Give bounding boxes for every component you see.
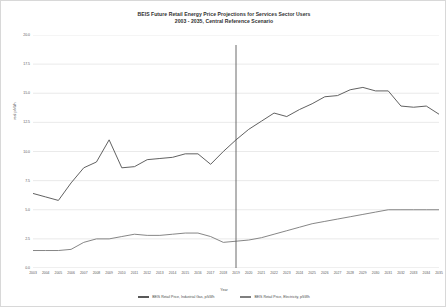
- x-axis-tick-label: 2009: [105, 271, 113, 275]
- x-axis-tick-label: 2006: [67, 271, 75, 275]
- x-axis-title: Year: [1, 288, 446, 292]
- x-axis-tick-label: 2021: [258, 271, 266, 275]
- x-axis-tick-label: 2025: [308, 271, 316, 275]
- legend-item-label: BEIS Retail Price, Industrial Gas, p/kWh: [152, 295, 214, 299]
- y-axis-tick-label: 12.5: [8, 120, 33, 124]
- chart-title-block: BEIS Future Retail Energy Price Projecti…: [1, 11, 446, 25]
- x-axis-tick-label: 2026: [321, 271, 329, 275]
- x-axis-tick-label: 2005: [55, 271, 63, 275]
- x-axis-tick-label: 2012: [143, 271, 151, 275]
- legend-item-label: BEIS Retail Price, Electricity, p/kWh: [254, 295, 309, 299]
- x-axis-tick-label: 2013: [156, 271, 164, 275]
- y-axis-tick-label: 15.0: [8, 91, 33, 95]
- x-axis-tick-label: 2031: [384, 271, 392, 275]
- page-subtitle: 2003 - 2035, Central Reference Scenario: [1, 18, 446, 25]
- page-title: BEIS Future Retail Energy Price Projecti…: [1, 11, 446, 18]
- x-axis-tick-label: 2029: [359, 271, 367, 275]
- chart-container: BEIS Future Retail Energy Price Projecti…: [0, 0, 446, 307]
- x-axis-tick-label: 2022: [270, 271, 278, 275]
- x-axis-tick-label: 2015: [181, 271, 189, 275]
- x-axis-tick-label: 2027: [334, 271, 342, 275]
- x-axis-tick-label: 2018: [220, 271, 228, 275]
- y-axis-tick-label: 7.5: [8, 179, 33, 183]
- x-axis-tick-label: 2016: [194, 271, 202, 275]
- x-axis-tick-label: 2028: [346, 271, 354, 275]
- x-axis-tick-label: 2033: [410, 271, 418, 275]
- y-axis-tick-label: 17.5: [8, 62, 33, 66]
- legend-line-swatch: [240, 296, 251, 297]
- x-axis-tick-label: 2020: [245, 271, 253, 275]
- x-axis-tick-label: 2014: [169, 271, 177, 275]
- legend-line-swatch: [138, 296, 149, 297]
- x-axis-tick-label: 2030: [372, 271, 380, 275]
- x-axis-tick-label: 2007: [80, 271, 88, 275]
- x-axis-tick-label: 2023: [283, 271, 291, 275]
- y-axis-title: real p/kWh: [13, 81, 17, 141]
- x-axis-tick-label: 2024: [296, 271, 304, 275]
- chart-legend: BEIS Retail Price, Industrial Gas, p/kWh…: [1, 295, 446, 299]
- y-axis-tick-label: 2.5: [8, 237, 33, 241]
- y-axis-tick-label: 10.0: [8, 150, 33, 154]
- x-axis-tick-label: 2003: [29, 271, 37, 275]
- legend-item[interactable]: BEIS Retail Price, Industrial Gas, p/kWh: [138, 295, 214, 299]
- plot-area: 0.02.55.07.510.012.515.017.520.0 2003200…: [33, 35, 439, 268]
- x-axis-tick-label: 2032: [397, 271, 405, 275]
- x-axis-tick-label: 2034: [423, 271, 431, 275]
- legend-item[interactable]: BEIS Retail Price, Electricity, p/kWh: [240, 295, 309, 299]
- x-axis-tick-label: 2035: [435, 271, 443, 275]
- y-axis-tick-label: 0.0: [8, 266, 33, 270]
- x-axis-tick-label: 2017: [207, 271, 215, 275]
- y-axis-tick-label: 20.0: [8, 33, 33, 37]
- x-axis-tick-label: 2010: [118, 271, 126, 275]
- y-axis-tick-label: 5.0: [8, 208, 33, 212]
- x-axis-tick-label: 2011: [131, 271, 138, 275]
- x-axis-tick-label: 2004: [42, 271, 50, 275]
- x-axis-tick-label: 2008: [93, 271, 101, 275]
- x-axis-tick-label: 2019: [232, 271, 240, 275]
- line-chart-svg: [33, 35, 439, 268]
